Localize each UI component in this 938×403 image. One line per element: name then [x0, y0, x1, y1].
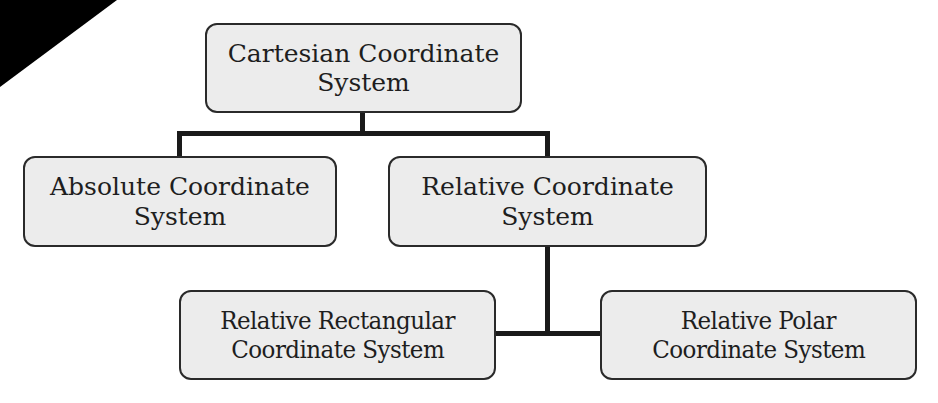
node-label-line: System: [501, 202, 594, 232]
node-cartesian-coordinate-system: Cartesian Coordinate System: [205, 23, 522, 113]
connector-relative-stem: [545, 246, 550, 336]
node-relative-polar-coordinate-system: Relative Polar Coordinate System: [600, 290, 917, 380]
node-label-line: Relative Polar: [681, 306, 836, 336]
node-label-line: Cartesian Coordinate: [228, 39, 500, 69]
node-label-line: Coordinate System: [652, 335, 865, 365]
connector-level3-bar: [495, 331, 601, 336]
node-label-line: Relative Rectangular: [220, 306, 455, 336]
node-relative-coordinate-system: Relative Coordinate System: [388, 156, 707, 247]
node-label-line: System: [134, 202, 227, 232]
node-label-line: Coordinate System: [231, 335, 444, 365]
connector-level2-bar: [177, 131, 550, 136]
connector-to-relative: [545, 131, 550, 157]
node-label-line: System: [317, 68, 410, 98]
connector-to-absolute: [177, 131, 182, 157]
node-label-line: Absolute Coordinate: [50, 172, 310, 202]
node-absolute-coordinate-system: Absolute Coordinate System: [23, 156, 337, 247]
node-label-line: Relative Coordinate: [421, 172, 673, 202]
node-relative-rectangular-coordinate-system: Relative Rectangular Coordinate System: [179, 290, 496, 380]
